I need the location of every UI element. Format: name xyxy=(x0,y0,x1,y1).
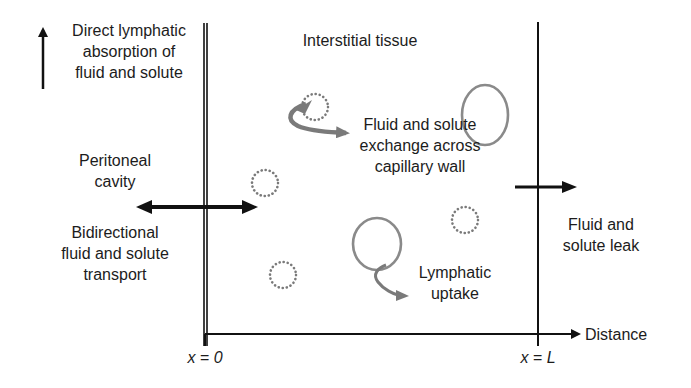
label-line: fluid and solute xyxy=(56,62,202,83)
x0-label: x = 0 xyxy=(180,347,230,368)
left-boundary-line xyxy=(204,23,207,346)
label-line: cavity xyxy=(60,171,170,192)
label-line: transport xyxy=(40,264,190,285)
label-line: Fluid and solute xyxy=(340,114,500,135)
label-line: fluid and solute xyxy=(40,243,190,264)
label-line: Peritoneal xyxy=(60,150,170,171)
label-line: uptake xyxy=(405,283,505,304)
direct-lymphatic-label: Direct lymphatic absorption of fluid and… xyxy=(56,20,202,83)
distance-axis-label: Distance xyxy=(585,324,647,345)
leak-label: Fluid and solute leak xyxy=(546,214,656,256)
label-line: Bidirectional xyxy=(40,222,190,243)
xL-label: x = L xyxy=(513,347,563,368)
label-line: Lymphatic xyxy=(405,262,505,283)
exchange-label: Fluid and solute exchange across capilla… xyxy=(340,114,500,177)
label-line: Direct lymphatic xyxy=(56,20,202,41)
lymphatic-uptake-loop-icon xyxy=(353,218,409,301)
dotted-circle-icon xyxy=(270,262,296,288)
peritoneal-cavity-label: Peritoneal cavity xyxy=(60,150,170,192)
dotted-circle-icon xyxy=(452,207,478,233)
label-line: Fluid and xyxy=(546,214,656,235)
label-line: exchange across xyxy=(340,135,500,156)
label-line: capillary wall xyxy=(340,156,500,177)
label-line: absorption of xyxy=(56,41,202,62)
interstitial-tissue-label: Interstitial tissue xyxy=(280,30,440,51)
lymphatic-uptake-label: Lymphatic uptake xyxy=(405,262,505,304)
leak-arrow-icon xyxy=(515,181,577,193)
dotted-circle-icon xyxy=(252,170,278,196)
bidirectional-arrow-icon xyxy=(136,200,258,214)
bidirectional-transport-label: Bidirectional fluid and solute transport xyxy=(40,222,190,285)
label-line: solute leak xyxy=(546,235,656,256)
